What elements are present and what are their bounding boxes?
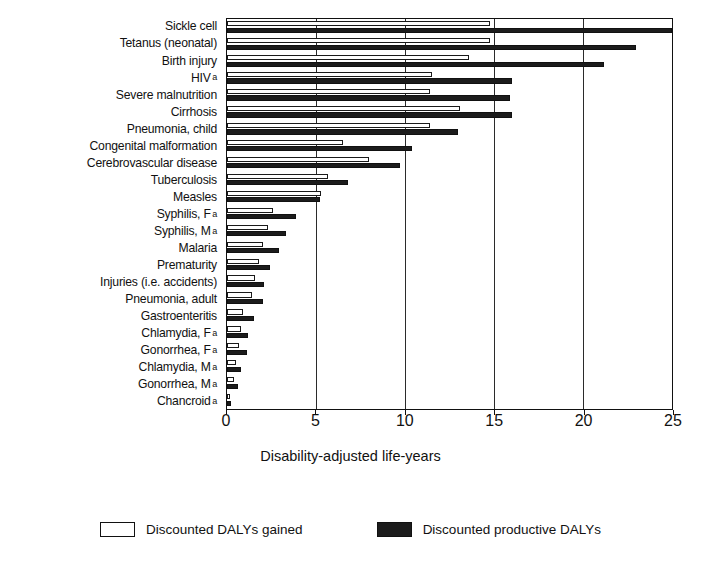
footnote-marker: a: [212, 397, 217, 406]
bar-black: [227, 265, 270, 270]
x-tick-label: 20: [575, 412, 593, 430]
bar-white: [227, 106, 460, 111]
x-tick-label: 0: [222, 412, 231, 430]
bar-row: [227, 256, 672, 273]
bar-black: [227, 129, 458, 134]
bar-white: [227, 208, 273, 213]
bar-white: [227, 72, 432, 77]
bar-white: [227, 360, 236, 365]
bar-black: [227, 316, 254, 321]
bar-black: [227, 62, 604, 67]
bar-row: [227, 19, 672, 36]
footnote-marker: a: [212, 227, 217, 236]
bar-white: [227, 292, 252, 297]
bar-row: [227, 104, 672, 121]
legend-label-dalys-gained: Discounted DALYs gained: [146, 522, 303, 537]
bar-white: [227, 259, 259, 264]
y-axis-label: Gonorrhea, Ma: [0, 376, 222, 393]
y-axis-label: Syphilis, Ma: [0, 223, 222, 240]
legend-swatch-white-icon: [100, 522, 135, 537]
x-axis-tick-labels: 0510152025: [0, 412, 701, 438]
legend-item-productive-dalys: Discounted productive DALYs: [377, 522, 601, 537]
plot-area: [226, 18, 673, 410]
bar-black: [227, 282, 264, 287]
y-axis-label: Pneumonia, adult: [0, 291, 222, 308]
bar-row: [227, 222, 672, 239]
bar-row: [227, 172, 672, 189]
y-axis-label: Gonorrhea, Fa: [0, 342, 222, 359]
bar-row: [227, 138, 672, 155]
bar-row: [227, 358, 672, 375]
legend-swatch-black-icon: [377, 522, 412, 537]
plot-container: Sickle cellTetanus (neonatal)Birth injur…: [0, 0, 701, 430]
bar-white: [227, 55, 469, 60]
bar-row: [227, 155, 672, 172]
bar-white: [227, 140, 343, 145]
y-axis-label: Injuries (i.e. accidents): [0, 274, 222, 291]
footnote-marker: a: [212, 329, 217, 338]
bar-row: [227, 273, 672, 290]
bar-row: [227, 324, 672, 341]
legend-item-dalys-gained: Discounted DALYs gained: [100, 522, 303, 537]
y-axis-label: Pneumonia, child: [0, 120, 222, 137]
y-axis-label: Cerebrovascular disease: [0, 154, 222, 171]
x-tick-label: 25: [664, 412, 682, 430]
bar-white: [227, 326, 241, 331]
bar-white: [227, 174, 328, 179]
footnote-marker: a: [212, 73, 217, 82]
bar-row: [227, 70, 672, 87]
bar-white: [227, 123, 430, 128]
bar-row: [227, 205, 672, 222]
y-axis-label: Tetanus (neonatal): [0, 35, 222, 52]
bar-black: [227, 367, 241, 372]
y-axis-label: Prematurity: [0, 257, 222, 274]
bar-row: [227, 307, 672, 324]
bar-white: [227, 225, 268, 230]
bar-row: [227, 341, 672, 358]
bar-row: [227, 375, 672, 392]
bar-black: [227, 197, 320, 202]
y-axis-label: Chancroida: [0, 393, 222, 410]
bar-white: [227, 191, 321, 196]
bar-row: [227, 239, 672, 256]
footnote-marker: a: [212, 210, 217, 219]
y-axis-label: HIVa: [0, 69, 222, 86]
bar-white: [227, 89, 430, 94]
bar-black: [227, 78, 512, 83]
y-axis-label: Chlamydia, Ma: [0, 359, 222, 376]
bar-row: [227, 392, 672, 409]
y-axis-label: Congenital malformation: [0, 137, 222, 154]
x-axis-title: Disability-adjusted life-years: [0, 448, 701, 464]
y-axis-label: Syphilis, Fa: [0, 206, 222, 223]
y-axis-label: Measles: [0, 188, 222, 205]
y-axis-label: Gastroenteritis: [0, 308, 222, 325]
bar-black: [227, 231, 286, 236]
bar-white: [227, 21, 490, 26]
bar-black: [227, 350, 247, 355]
bar-white: [227, 377, 234, 382]
chart-legend: Discounted DALYs gained Discounted produ…: [0, 512, 701, 546]
bar-black: [227, 112, 512, 117]
x-tick-label: 5: [311, 412, 320, 430]
bar-row: [227, 189, 672, 206]
y-axis-label: Cirrhosis: [0, 103, 222, 120]
bar-white: [227, 343, 239, 348]
footnote-marker: a: [212, 380, 217, 389]
y-axis-label: Malaria: [0, 240, 222, 257]
bar-rows: [227, 19, 672, 409]
bar-white: [227, 309, 243, 314]
x-tick-label: 15: [485, 412, 503, 430]
bar-row: [227, 53, 672, 70]
bar-black: [227, 163, 400, 168]
bar-black: [227, 299, 263, 304]
bar-black: [227, 333, 248, 338]
bar-row: [227, 36, 672, 53]
bar-black: [227, 214, 296, 219]
legend-label-productive-dalys: Discounted productive DALYs: [423, 522, 601, 537]
bar-row: [227, 87, 672, 104]
y-axis-label: Chlamydia, Fa: [0, 325, 222, 342]
y-axis-category-labels: Sickle cellTetanus (neonatal)Birth injur…: [0, 18, 222, 410]
bar-row: [227, 121, 672, 138]
bar-black: [227, 401, 231, 406]
bar-black: [227, 384, 238, 389]
